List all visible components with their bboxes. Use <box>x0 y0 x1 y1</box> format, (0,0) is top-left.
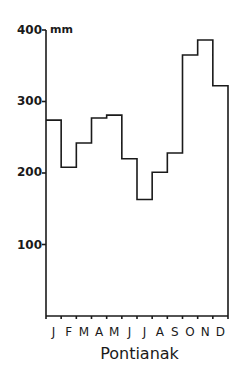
month-label-apr: A <box>91 326 107 338</box>
y-tick-label-300: 300 <box>12 95 42 107</box>
month-label-nov: N <box>197 326 213 338</box>
month-label-sep: S <box>167 326 183 338</box>
month-label-jan: J <box>46 326 62 338</box>
month-label-feb: F <box>61 326 77 338</box>
month-label-jul: J <box>137 326 153 338</box>
rainfall-step-series <box>46 40 228 316</box>
month-label-may: M <box>106 326 122 338</box>
month-label-mar: M <box>76 326 92 338</box>
month-label-jun: J <box>121 326 137 338</box>
rainfall-chart: 400 mm 300 200 100 J F M A M J J A S O N… <box>0 0 239 376</box>
chart-title: Pontianak <box>0 344 239 363</box>
month-label-oct: O <box>182 326 198 338</box>
y-tick-label-200: 200 <box>12 166 42 178</box>
plot-area <box>0 0 239 376</box>
month-label-aug: A <box>152 326 168 338</box>
y-tick-label-100: 100 <box>12 239 42 251</box>
month-label-dec: D <box>212 326 228 338</box>
y-tick-label-400: 400 <box>12 24 42 36</box>
y-axis-unit-label: mm <box>50 24 73 36</box>
